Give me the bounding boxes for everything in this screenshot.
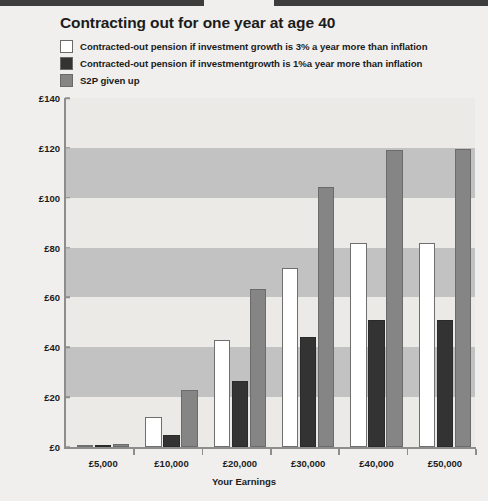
bars-layer bbox=[65, 98, 475, 447]
bar[interactable] bbox=[386, 150, 403, 447]
y-axis-tick-mark bbox=[65, 446, 70, 448]
x-axis-tick-label: £20,000 bbox=[223, 458, 257, 469]
x-axis-tick-mark bbox=[475, 449, 477, 455]
x-axis-tick-mark bbox=[133, 449, 135, 455]
bar[interactable] bbox=[181, 390, 198, 447]
x-axis-tick-label: £50,000 bbox=[428, 458, 462, 469]
bar[interactable] bbox=[163, 435, 180, 447]
bar-group bbox=[419, 98, 472, 447]
x-axis-tick-label: £10,000 bbox=[154, 458, 188, 469]
x-axis-title: Your Earnings bbox=[0, 476, 488, 487]
bar-group bbox=[214, 98, 267, 447]
y-axis-ticks: £0£20£40£60£80£100£120£140 bbox=[0, 0, 60, 501]
y-axis-tick-label: £60 bbox=[44, 292, 60, 303]
bar[interactable] bbox=[368, 320, 385, 447]
bar[interactable] bbox=[214, 340, 231, 447]
y-axis-tick-mark bbox=[65, 247, 70, 249]
bar[interactable] bbox=[419, 243, 436, 447]
chart-title: Contracting out for one year at age 40 bbox=[60, 14, 335, 32]
bar[interactable] bbox=[232, 381, 249, 447]
bar[interactable] bbox=[282, 268, 299, 447]
bar[interactable] bbox=[318, 187, 335, 448]
legend-item: S2P given up bbox=[60, 72, 485, 88]
legend-item: Contracted-out pension if investmentgrow… bbox=[60, 55, 485, 71]
x-axis-tick-label: £30,000 bbox=[291, 458, 325, 469]
bar[interactable] bbox=[300, 337, 317, 447]
bar[interactable] bbox=[77, 445, 94, 447]
legend-swatch-icon bbox=[60, 74, 73, 87]
legend-item: Contracted-out pension if investment gro… bbox=[60, 38, 485, 54]
x-axis-tick-mark bbox=[338, 449, 340, 455]
y-axis-tick-mark bbox=[65, 297, 70, 299]
x-axis-tick-label: £5,000 bbox=[89, 458, 118, 469]
legend-swatch-icon bbox=[60, 57, 73, 70]
bar[interactable] bbox=[350, 243, 367, 447]
bar-group bbox=[350, 98, 403, 447]
bar-group bbox=[77, 98, 130, 447]
top-rule-right-thin bbox=[274, 0, 488, 6]
bar[interactable] bbox=[455, 149, 472, 447]
legend-label: S2P given up bbox=[80, 75, 139, 86]
y-axis-tick-label: £80 bbox=[44, 242, 60, 253]
y-axis-tick-label: £120 bbox=[39, 142, 60, 153]
legend-swatch-icon bbox=[60, 40, 73, 53]
x-axis-tick-mark bbox=[202, 449, 204, 455]
bar[interactable] bbox=[113, 444, 130, 447]
bar[interactable] bbox=[145, 417, 162, 447]
y-axis-tick-label: £40 bbox=[44, 342, 60, 353]
top-rule-group bbox=[0, 0, 488, 7]
y-axis-tick-mark bbox=[65, 147, 70, 149]
y-axis-tick-mark bbox=[65, 347, 70, 349]
bar-group bbox=[282, 98, 335, 447]
y-axis-tick-mark bbox=[65, 396, 70, 398]
y-axis-tick-label: £100 bbox=[39, 192, 60, 203]
y-axis-tick-mark bbox=[65, 97, 70, 99]
y-axis-tick-label: £140 bbox=[39, 93, 60, 104]
x-axis-tick-label: £40,000 bbox=[359, 458, 393, 469]
bar[interactable] bbox=[437, 320, 454, 447]
legend-label: Contracted-out pension if investment gro… bbox=[80, 41, 427, 52]
y-axis-tick-label: £20 bbox=[44, 392, 60, 403]
bar-group bbox=[145, 98, 198, 447]
y-axis-tick-mark bbox=[65, 197, 70, 199]
bar[interactable] bbox=[250, 289, 267, 447]
x-axis-tick-mark bbox=[407, 449, 409, 455]
bar[interactable] bbox=[95, 445, 112, 447]
chart-legend: Contracted-out pension if investment gro… bbox=[60, 38, 485, 89]
y-axis-tick-label: £0 bbox=[49, 442, 60, 453]
x-axis-tick-mark bbox=[270, 449, 272, 455]
legend-label: Contracted-out pension if investmentgrow… bbox=[80, 58, 422, 69]
